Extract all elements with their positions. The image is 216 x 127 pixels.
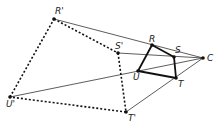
ray-line — [118, 53, 203, 58]
vertex-label: R — [149, 34, 155, 44]
center-label: C — [207, 53, 214, 63]
vertex-dot — [201, 56, 205, 60]
vertex-label: T — [178, 79, 185, 89]
vertex-label: T' — [128, 113, 136, 123]
vertex-labels: RSTUR'S'T'U'C — [6, 6, 214, 123]
diagram-canvas: RSTUR'S'T'U'C — [0, 0, 216, 127]
image-edge — [10, 19, 54, 97]
image-edge — [118, 53, 126, 112]
dilation-diagram: RSTUR'S'T'U'C — [0, 0, 216, 127]
vertex-dot — [52, 17, 56, 21]
vertex-label: U' — [6, 99, 15, 109]
vertex-label: U — [133, 72, 140, 82]
vertex-label: S' — [115, 41, 123, 51]
image-edge — [10, 97, 126, 112]
vertex-dot — [172, 55, 176, 59]
vertex-dot — [116, 51, 120, 55]
vertex-label: S — [175, 45, 181, 55]
vertex-label: R' — [55, 6, 64, 16]
original-edges — [138, 45, 176, 78]
image-edge — [54, 19, 118, 53]
original-quadrilateral — [138, 45, 176, 78]
